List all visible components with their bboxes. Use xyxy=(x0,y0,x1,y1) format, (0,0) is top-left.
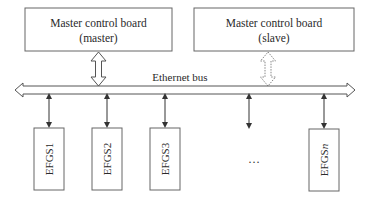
efgs2-label: EFGS2 xyxy=(101,143,113,175)
efgs2-box: EFGS2 xyxy=(92,128,122,190)
efgs3-label: EFGS3 xyxy=(159,142,171,175)
efgsn-label-base: EFGS xyxy=(318,149,330,176)
slave-control-board: Master control board (slave) xyxy=(194,8,354,51)
efgs3-box: EFGS3 xyxy=(150,128,180,190)
master-board-title: Master control board xyxy=(50,17,147,29)
efgsn-label-index: n xyxy=(318,143,330,149)
efgs1-label: EFGS1 xyxy=(43,143,55,175)
ethernet-bus xyxy=(15,83,355,97)
master-control-board: Master control board (master) xyxy=(25,8,172,51)
slave-board-role: (slave) xyxy=(258,32,289,45)
ellipsis: … xyxy=(248,152,260,166)
efgsn-label: EFGSn xyxy=(318,143,330,176)
slave-board-title: Master control board xyxy=(226,17,323,29)
efgsn-box: EFGSn xyxy=(309,129,339,191)
master-board-role: (master) xyxy=(79,32,117,45)
slave-bus-link-arrow xyxy=(261,52,276,86)
master-bus-link-arrow xyxy=(91,52,106,86)
ethernet-bus-label: Ethernet bus xyxy=(152,71,207,83)
efgs1-box: EFGS1 xyxy=(34,128,64,190)
